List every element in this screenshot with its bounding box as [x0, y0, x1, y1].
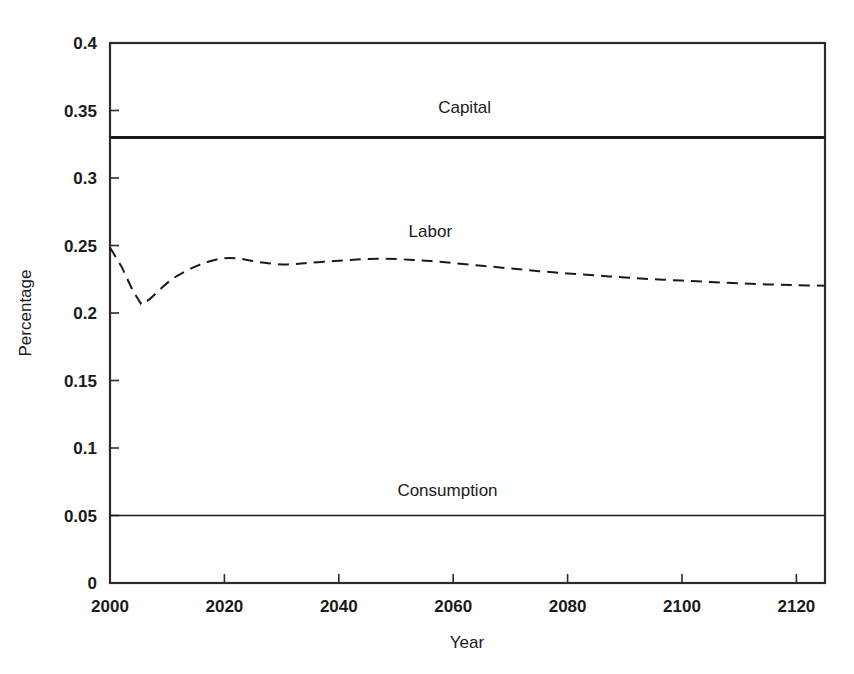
x-tick-label: 2100	[663, 597, 701, 616]
x-tick-label: 2000	[91, 597, 129, 616]
y-axis-title: Percentage	[16, 270, 35, 357]
y-tick-label: 0.35	[64, 102, 97, 121]
y-tick-label: 0.4	[73, 34, 97, 53]
y-tick-label: 0.1	[73, 439, 97, 458]
x-tick-label: 2080	[549, 597, 587, 616]
y-tick-label: 0.2	[73, 304, 97, 323]
x-tick-label: 2060	[434, 597, 472, 616]
y-tick-label: 0.25	[64, 237, 97, 256]
x-tick-label: 2020	[205, 597, 243, 616]
x-axis-title: Year	[450, 633, 485, 652]
x-tick-label: 2040	[320, 597, 358, 616]
chart-background	[0, 0, 854, 674]
y-tick-label: 0	[88, 574, 97, 593]
x-tick-label: 2120	[777, 597, 815, 616]
series-label-consumption: Consumption	[397, 481, 497, 500]
series-label-capital: Capital	[438, 98, 491, 117]
y-tick-label: 0.15	[64, 372, 97, 391]
y-tick-label: 0.05	[64, 507, 97, 526]
series-label-labor: Labor	[409, 222, 453, 241]
economics-line-chart: 00.050.10.150.20.250.30.350.4 2000202020…	[0, 0, 854, 674]
y-tick-label: 0.3	[73, 169, 97, 188]
